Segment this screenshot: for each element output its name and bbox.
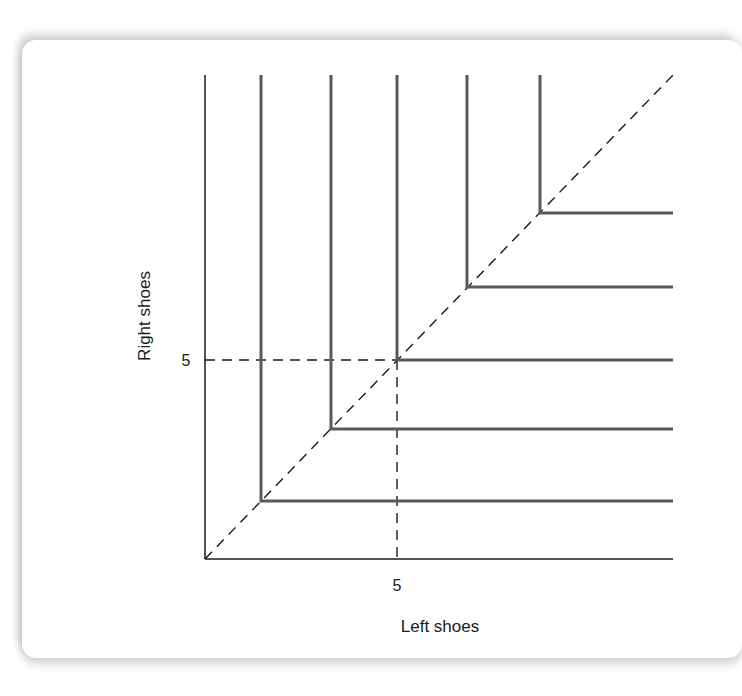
x-axis-label: Left shoes	[401, 617, 479, 636]
y-tick-label-5: 5	[182, 352, 191, 369]
x-tick-label-5: 5	[393, 577, 402, 594]
diagonal-dashed-line	[205, 75, 673, 559]
indifference-curve-4	[467, 75, 673, 287]
y-axis-label: Right shoes	[135, 271, 154, 361]
